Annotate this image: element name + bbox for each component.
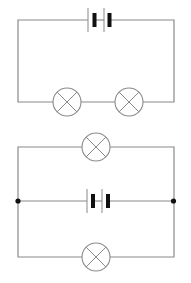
lamp-icon [82, 243, 110, 271]
lamp-icon [115, 88, 143, 116]
series-wire-top-left [18, 20, 88, 102]
junction-dot-icon [171, 198, 176, 203]
series-wire-top-right [111, 20, 174, 102]
series-circuit [18, 8, 174, 116]
parallel-wire-top-right [110, 147, 174, 257]
lamp-icon [82, 133, 110, 161]
parallel-wire-top-left [18, 147, 82, 257]
junction-dot-icon [15, 198, 20, 203]
parallel-circuit [15, 133, 176, 271]
circuit-diagrams [0, 0, 191, 283]
lamp-icon [53, 88, 81, 116]
